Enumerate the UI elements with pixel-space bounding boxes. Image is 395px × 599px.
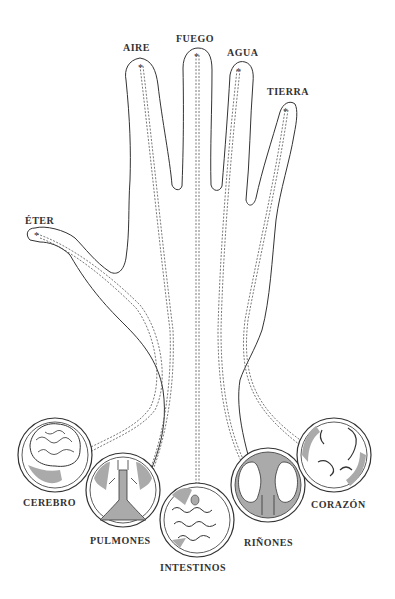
organ-pulmones-medallion [86, 453, 160, 527]
label-rinones: RIÑONES [244, 537, 293, 548]
label-tierra: TIERRA [267, 86, 309, 97]
svg-text:*: * [34, 230, 39, 241]
organ-cerebro-medallion [18, 418, 92, 492]
label-intestinos: INTESTINOS [160, 562, 226, 573]
label-eter: ÉTER [25, 215, 54, 226]
organ-intestinos-medallion [160, 483, 234, 557]
svg-text:*: * [236, 66, 241, 77]
label-fuego: FUEGO [176, 33, 214, 44]
organ-corazon-medallion [297, 418, 371, 492]
label-agua: AGUA [227, 47, 258, 58]
svg-text:*: * [194, 51, 199, 62]
svg-text:*: * [283, 106, 288, 117]
svg-text:*: * [138, 62, 143, 73]
label-aire: AIRE [123, 42, 150, 53]
label-cerebro: CEREBRO [23, 497, 76, 508]
organ-rinones-medallion [231, 448, 305, 522]
label-corazon: CORAZÓN [311, 499, 366, 510]
label-pulmones: PULMONES [90, 535, 151, 546]
